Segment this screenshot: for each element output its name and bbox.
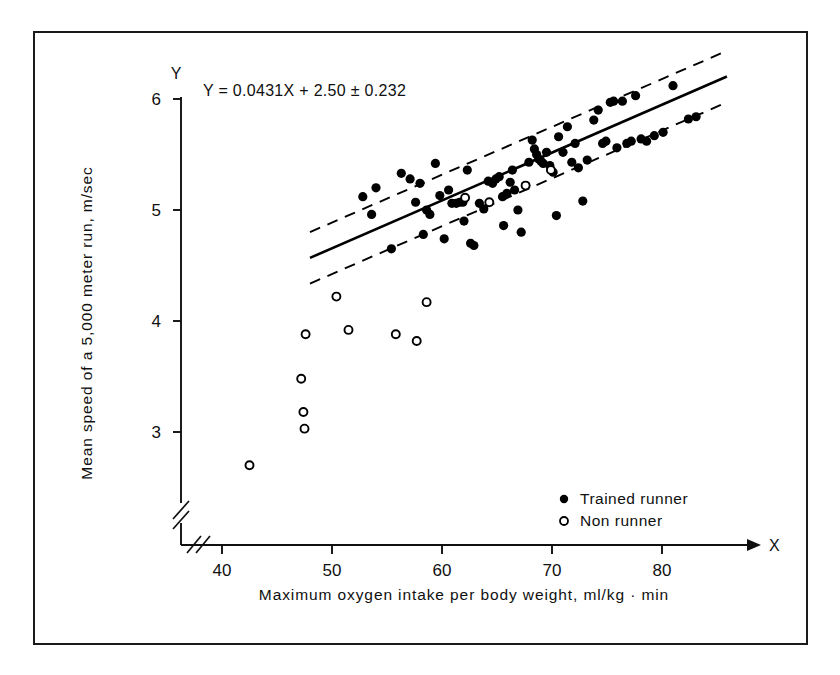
scatter-plot: 3456 4050607080 Y X Maximum oxygen intak… [35, 33, 806, 643]
data-point-trained-runner [692, 112, 701, 121]
confidence-band-line [310, 51, 727, 232]
data-point-trained-runner [563, 122, 572, 131]
data-point-trained-runner [435, 191, 444, 200]
data-point-trained-runner [358, 192, 367, 201]
x-axis-letter: X [769, 537, 780, 554]
data-point-non-runner [413, 337, 421, 345]
data-point-trained-runner [367, 210, 376, 219]
data-point-trained-runner [594, 106, 603, 115]
x-tick-label: 70 [543, 561, 562, 580]
x-axis-tick-labels: 4050607080 [213, 561, 672, 580]
data-point-trained-runner [440, 234, 449, 243]
data-point-trained-runner [552, 211, 561, 220]
data-point-trained-runner [524, 158, 533, 167]
data-point-trained-runner [513, 205, 522, 214]
data-point-trained-runner [506, 178, 515, 187]
data-point-trained-runner [612, 143, 621, 152]
data-point-trained-runner [609, 97, 618, 106]
data-point-trained-runner [444, 185, 453, 194]
data-point-non-runner [522, 182, 530, 190]
data-point-trained-runner [578, 197, 587, 206]
data-point-trained-runner [642, 137, 651, 146]
x-tick-label: 60 [433, 561, 452, 580]
data-point-non-runner [332, 293, 340, 301]
data-point-trained-runner [431, 159, 440, 168]
x-tick-label: 40 [213, 561, 232, 580]
y-axis-label: Mean speed of a 5,000 meter run, m/sec [78, 166, 95, 479]
data-point-non-runner [345, 326, 353, 334]
x-axis-arrowhead [747, 539, 761, 551]
data-point-trained-runner [397, 169, 406, 178]
data-point-trained-runner [571, 139, 580, 148]
data-point-trained-runner [554, 132, 563, 141]
data-point-trained-runner [499, 221, 508, 230]
data-point-trained-runner [425, 210, 434, 219]
y-tick-label: 6 [152, 90, 161, 109]
data-point-non-runner [302, 330, 310, 338]
data-point-trained-runner [415, 179, 424, 188]
x-axis-label: Maximum oxygen intake per body weight, m… [259, 586, 669, 603]
data-point-trained-runner [406, 174, 415, 183]
data-point-trained-runner [419, 230, 428, 239]
data-point-non-runner [485, 198, 493, 206]
data-point-trained-runner [601, 137, 610, 146]
data-point-non-runner [392, 330, 400, 338]
data-point-non-runner [461, 194, 469, 202]
data-point-trained-runner [558, 148, 567, 157]
x-tick-label: 80 [653, 561, 672, 580]
y-axis-break-slash [173, 501, 189, 519]
data-point-trained-runner [411, 198, 420, 207]
data-point-trained-runner [589, 115, 598, 124]
x-tick-label: 50 [323, 561, 342, 580]
legend-label: Non runner [580, 512, 663, 529]
y-tick-label: 4 [152, 312, 161, 331]
data-point-trained-runner [508, 165, 517, 174]
data-point-trained-runner [459, 217, 468, 226]
data-point-non-runner [297, 375, 305, 383]
data-point-trained-runner [371, 183, 380, 192]
data-point-trained-runner [650, 131, 659, 140]
y-axis-letter: Y [171, 65, 182, 82]
series-trained-runner [358, 81, 701, 253]
data-point-non-runner [301, 425, 309, 433]
legend-marker-trained-runner [560, 495, 568, 503]
data-point-non-runner [547, 166, 555, 174]
data-point-trained-runner [659, 128, 668, 137]
data-point-trained-runner [387, 244, 396, 253]
series-non-runner [246, 166, 555, 469]
legend-marker-non-runner [560, 517, 568, 525]
data-point-trained-runner [668, 81, 677, 90]
data-point-trained-runner [574, 163, 583, 172]
y-axis-ticks [173, 99, 181, 432]
x-axis-ticks [222, 545, 662, 554]
data-point-trained-runner [517, 228, 526, 237]
data-point-trained-runner [469, 241, 478, 250]
y-tick-label: 5 [152, 201, 161, 220]
data-point-trained-runner [510, 185, 519, 194]
figure-page: 3456 4050607080 Y X Maximum oxygen intak… [0, 0, 840, 675]
figure-frame: 3456 4050607080 Y X Maximum oxygen intak… [33, 31, 808, 645]
y-axis-tick-labels: 3456 [152, 90, 161, 442]
data-point-trained-runner [463, 165, 472, 174]
regression-equation-annotation: Y = 0.0431X + 2.50 ± 0.232 [203, 82, 406, 99]
data-point-trained-runner [495, 172, 504, 181]
y-tick-label: 3 [152, 423, 161, 442]
legend-label: Trained runner [580, 490, 688, 507]
data-point-trained-runner [528, 135, 537, 144]
chart-legend: Trained runnerNon runner [560, 490, 688, 529]
data-point-non-runner [299, 408, 307, 416]
data-point-trained-runner [542, 148, 551, 157]
data-point-trained-runner [583, 155, 592, 164]
data-point-trained-runner [627, 137, 636, 146]
data-point-non-runner [423, 298, 431, 306]
data-point-non-runner [246, 461, 254, 469]
data-point-trained-runner [631, 91, 640, 100]
data-point-trained-runner [618, 97, 627, 106]
